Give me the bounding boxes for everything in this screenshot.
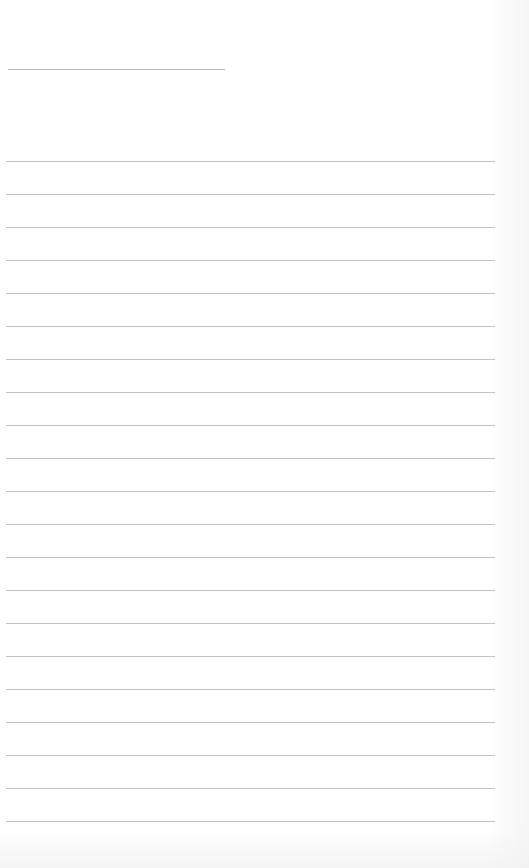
ruled-line <box>6 590 495 591</box>
ruled-line <box>6 326 495 327</box>
ruled-line <box>6 557 495 558</box>
ruled-line <box>6 491 495 492</box>
ruled-line <box>6 821 495 822</box>
ruled-line <box>6 524 495 525</box>
ruled-line <box>6 755 495 756</box>
ruled-line <box>6 689 495 690</box>
ruled-line <box>6 722 495 723</box>
ruled-line <box>6 425 495 426</box>
ruled-line <box>6 458 495 459</box>
ruled-line <box>6 788 495 789</box>
ruled-line <box>6 227 495 228</box>
ruled-line <box>6 260 495 261</box>
ruled-line <box>6 656 495 657</box>
ruled-line <box>6 293 495 294</box>
lined-paper-page <box>0 0 529 868</box>
ruled-line <box>6 194 495 195</box>
ruled-line <box>6 161 495 162</box>
ruled-line <box>6 392 495 393</box>
ruled-line <box>6 623 495 624</box>
header-title-line <box>8 69 225 70</box>
ruled-line <box>6 359 495 360</box>
